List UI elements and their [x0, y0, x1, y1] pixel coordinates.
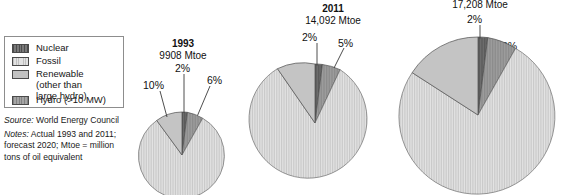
chart-2011-leader-hydro — [334, 48, 344, 68]
chart-1993-leader-renewable — [160, 91, 167, 117]
chart-2020-svg — [380, 0, 572, 195]
energy-mix-pie-chart-figure: Nuclear Fossil Renewable (other than lar… — [0, 0, 572, 195]
chart-1993-leader-hydro — [198, 86, 211, 116]
pie-chart-1993: 1993 9908 Mtoe 2% 6% 10% 82% — [0, 0, 260, 195]
pie-chart-2020: 17,208 Mtoe 2% 6% 16% 76% — [380, 0, 572, 195]
chart-1993-svg — [0, 0, 260, 195]
